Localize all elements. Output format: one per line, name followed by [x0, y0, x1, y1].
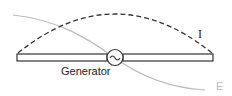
generator-label: Generator [61, 65, 111, 77]
dipole-diagram [0, 0, 232, 96]
current-curve-i [18, 14, 212, 53]
current-label: I [198, 27, 202, 42]
antenna-right-arm [123, 54, 213, 61]
field-label: E [216, 80, 223, 92]
antenna-left-arm [17, 54, 107, 61]
